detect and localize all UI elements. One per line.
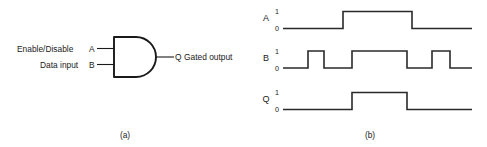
timing-row-b: B 1 0 [263,47,472,73]
figure-container: Enable/Disable A Data input B Q Gated ou… [0,0,487,147]
signal-q-low-level-label: 0 [275,105,279,114]
caption-b: (b) [365,130,375,140]
input-b-label: Data input [40,60,79,70]
signal-a-waveform [283,12,472,29]
signal-a-low-level-label: 0 [275,24,279,33]
signal-b-high-level-label: 1 [275,47,279,56]
signal-b-label: B [263,53,269,63]
timing-row-q: Q 1 0 [262,88,472,114]
input-a-pin: A [89,44,95,54]
timing-row-a: A 1 0 [263,7,472,33]
input-b-pin: B [89,60,95,70]
logic-gate-timing-figure: Enable/Disable A Data input B Q Gated ou… [0,0,487,147]
signal-q-high-level-label: 1 [275,88,279,97]
caption-a: (a) [120,130,130,140]
and-gate-icon [114,37,156,77]
output-pin-label: Q [175,52,182,62]
timing-diagram: A 1 0 B 1 0 Q 1 0 [262,7,472,140]
output-name-label: Gated output [184,52,233,62]
and-gate-schematic: Enable/Disable A Data input B Q Gated ou… [17,37,233,140]
input-a-label: Enable/Disable [17,44,74,54]
signal-b-waveform [283,51,472,68]
signal-q-label: Q [262,94,269,104]
signal-a-high-level-label: 1 [275,7,279,16]
signal-q-waveform [283,93,472,110]
signal-a-label: A [263,13,269,23]
signal-b-low-level-label: 0 [275,64,279,73]
